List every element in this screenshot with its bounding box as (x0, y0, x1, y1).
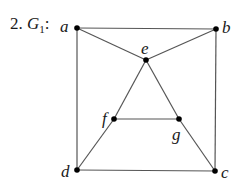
edge-e-f (114, 60, 146, 119)
edge-g-c (179, 119, 215, 171)
edge-d-c (77, 170, 215, 171)
node-g (176, 116, 182, 122)
node-label-e: e (141, 40, 149, 57)
edge-b-c (215, 29, 216, 171)
node-label-b: b (222, 19, 231, 36)
edge-a-e (77, 28, 146, 60)
edge-f-d (77, 119, 114, 170)
node-label-c: c (221, 164, 229, 181)
node-d (74, 167, 80, 173)
node-label-f: f (102, 110, 107, 127)
node-label-a: a (60, 18, 69, 35)
node-label-d: d (61, 163, 70, 180)
node-e (143, 57, 149, 63)
edge-e-b (146, 29, 216, 60)
node-c (212, 168, 218, 174)
graph-diagram (0, 0, 233, 183)
node-a (74, 25, 80, 31)
edge-e-g (146, 60, 179, 119)
node-f (111, 116, 117, 122)
edge-a-b (77, 28, 216, 29)
node-label-g: g (172, 126, 181, 143)
node-b (213, 26, 219, 32)
